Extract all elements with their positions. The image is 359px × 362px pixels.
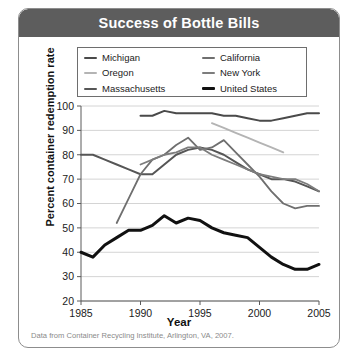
y-axis-tick-label: 70: [62, 173, 74, 185]
y-axis-tick-label: 90: [62, 124, 74, 136]
series-line-massachusetts: [81, 147, 319, 191]
y-axis-tick-label: 50: [62, 222, 74, 234]
y-axis-tick-label: 20: [62, 295, 74, 307]
y-axis-label: Percent container redemption rate: [44, 42, 56, 232]
y-axis-tick-label: 30: [62, 270, 74, 282]
chart-caption: Data from Container Recycling Institute,…: [31, 331, 234, 340]
chart-plot-area: 203040506070809010019851990199520002005: [19, 9, 340, 348]
series-line-michigan: [141, 111, 320, 121]
series-line-oregon: [212, 123, 283, 152]
x-axis-label: Year: [19, 316, 339, 328]
chart-figure: Success of Bottle Bills MichiganCaliforn…: [18, 8, 340, 348]
y-axis-tick-label: 40: [62, 246, 74, 258]
series-line-new-york: [141, 147, 320, 191]
y-axis-tick-label: 80: [62, 149, 74, 161]
y-axis-tick-label: 100: [56, 100, 74, 112]
y-axis-tick-label: 60: [62, 197, 74, 209]
